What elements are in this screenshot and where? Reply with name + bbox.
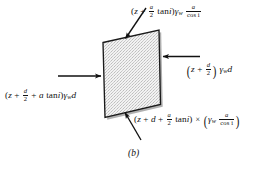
force-label-bottom: (z + d + a2 tani) × (γw acos i)	[134, 112, 240, 127]
fraction-denominator: 2	[149, 12, 154, 19]
paren-open: (	[187, 66, 191, 77]
fraction-denominator: 2	[23, 96, 28, 103]
parallelogram-element	[103, 30, 161, 118]
force-label-top: (z + a2 tani)γw acos i	[131, 4, 202, 19]
fraction-d-over-2: d2	[23, 88, 28, 103]
paren-close: )	[213, 66, 217, 77]
figure-container: (z + a2 tani)γw acos i (z + d2) γwd (z +…	[0, 0, 274, 169]
paren-open-2: (	[204, 116, 208, 127]
fraction-d-over-2: d2	[206, 62, 211, 77]
var-d: d	[72, 90, 77, 100]
fraction-denominator: cos i	[219, 120, 234, 127]
paren-close: )	[189, 114, 192, 124]
operator-plus: +	[29, 90, 39, 100]
fraction-denominator: 2	[167, 120, 172, 127]
operator-times: ×	[195, 115, 201, 124]
fraction-a-over-cos-i: acos i	[219, 112, 234, 127]
fraction-a-over-cos-i: acos i	[186, 4, 201, 19]
force-label-right: (z + d2) γwd	[186, 62, 232, 77]
gamma-subscript-w: w	[212, 117, 216, 124]
func-tan: tan	[46, 90, 58, 100]
figure-caption: (b)	[128, 148, 139, 158]
paren-close-2: )	[236, 116, 240, 127]
operator-plus: +	[141, 114, 151, 124]
fraction-denominator: cos i	[186, 12, 201, 19]
force-label-left: (z + d2 + a tani)γwd	[5, 88, 76, 103]
func-tan: tan	[157, 6, 169, 16]
diagram-canvas	[0, 0, 274, 169]
operator-plus: +	[138, 6, 148, 16]
gamma-subscript-w: w	[178, 9, 182, 16]
var-d: d	[228, 64, 233, 74]
operator-plus: +	[195, 64, 205, 74]
operator-plus: +	[156, 114, 166, 124]
func-tan: tan	[175, 114, 187, 124]
var-a: a	[39, 90, 44, 100]
fraction-a-over-2: a2	[149, 4, 154, 19]
operator-plus: +	[12, 90, 22, 100]
fraction-denominator: 2	[206, 70, 211, 77]
fraction-a-over-2: a2	[167, 112, 172, 127]
